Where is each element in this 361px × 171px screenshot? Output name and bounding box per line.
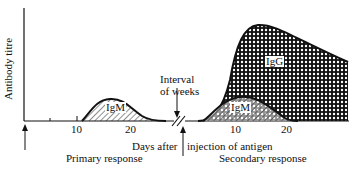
primary-response-label: Primary response: [66, 153, 143, 164]
igg-label: IgG: [265, 56, 284, 67]
primary-injection-arrow: [22, 124, 28, 131]
tick-secondary-10: 10: [230, 124, 241, 135]
injection-label: injection of antigen: [187, 141, 273, 152]
tick-primary-10: 10: [71, 124, 82, 135]
y-axis-label: Antibody titre: [2, 38, 14, 100]
days-after-label: Days after: [132, 141, 178, 152]
interval-label-2: of weeks: [160, 86, 199, 97]
secondary-injection-arrow: [180, 126, 186, 133]
tick-secondary-20: 20: [281, 124, 292, 135]
secondary-response-label: Secondary response: [219, 153, 307, 164]
interval-label-1: Interval: [160, 74, 194, 85]
primary-igm-label: IgM: [105, 102, 126, 113]
tick-primary-20: 20: [125, 124, 136, 135]
secondary-igm-label: IgM: [230, 102, 251, 113]
